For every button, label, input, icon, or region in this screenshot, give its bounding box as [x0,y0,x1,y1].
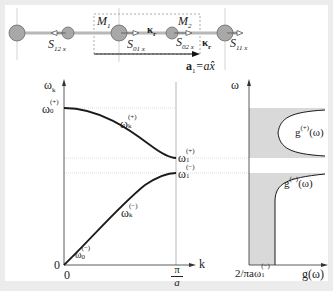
k-axis-label: k [199,258,205,270]
omega-axis-label: ω [231,79,239,91]
s12-label: S12 x [48,38,66,50]
dos-x-tick-label: 2/πaω(−)1 [235,268,271,280]
pi-over-a-label: π a [171,264,183,288]
m2-label: M2 [178,15,192,27]
s11-label: S11 x [230,37,247,49]
lattice-vector-label: a1=ax̂ [186,60,215,72]
lattice-vector-arrow [94,51,200,57]
dispersion-plot [62,79,249,267]
omegak-minus-label: ω(−)k [121,207,139,220]
origin-y-label: 0 [54,259,60,271]
omega0-plus-label: ω(+)0 [42,103,60,116]
s01-label: S01 x [127,38,145,50]
origin-x-label: 0 [64,269,70,281]
s02-label: S02 x [176,36,194,48]
g-plus-label: g(+)(ω) [295,127,324,138]
omega1-minus-label: ω(−)1 [178,168,196,181]
omega0-minus-label: ω(−)0 [75,250,92,262]
kappa2-label: κr [202,37,211,48]
omegak-plus-label: ω(+)k [120,118,138,131]
left-outer-mass [9,25,25,41]
optical-branch-curve [64,108,176,158]
g-axis-label: g(ω) [302,268,324,280]
omega-k-axis-label: ωk [44,79,55,91]
kappa1-label: κr [147,24,156,35]
dos-plot [247,79,328,267]
g-minus-label: g(−)(ω) [284,178,313,189]
m1-label: M1 [97,15,111,27]
